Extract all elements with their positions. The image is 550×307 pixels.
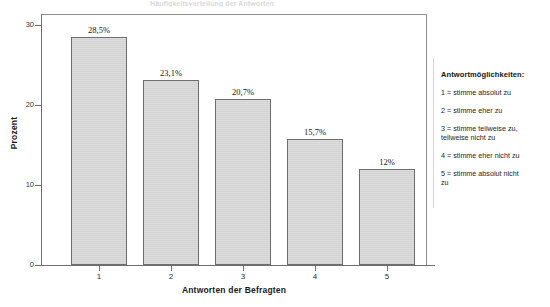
- x-tick-label-4: 4: [300, 272, 330, 282]
- bar-1: [71, 37, 127, 265]
- y-axis-title: Prozent: [9, 93, 19, 173]
- y-tick-0: [35, 265, 41, 266]
- y-tick-10: [35, 185, 41, 186]
- y-axis-line: [41, 14, 42, 266]
- chart-screenshot: Häufigkeitsverteilung der Antworten 0 10…: [0, 0, 550, 307]
- legend-title: Antwortmöglichkeiten:: [441, 70, 550, 79]
- legend-divider: [433, 58, 434, 208]
- bar-label-4: 15,7%: [285, 127, 345, 137]
- x-tick-3: [243, 266, 244, 271]
- x-tick-4: [315, 266, 316, 271]
- legend-item-1: 1 = stimme absolut zu: [441, 88, 550, 97]
- y-tick-label-30: 30: [14, 21, 34, 29]
- y-tick-20: [35, 105, 41, 106]
- x-tick-label-1: 1: [84, 272, 114, 282]
- x-tick-label-3: 3: [228, 272, 258, 282]
- bar-4: [287, 139, 343, 265]
- x-tick-5: [387, 266, 388, 271]
- bar-label-5: 12%: [357, 157, 417, 167]
- bar-3: [215, 99, 271, 265]
- x-axis-title: Antworten der Befragten: [41, 285, 427, 295]
- legend-panel: Antwortmöglichkeiten: 1 = stimme absolut…: [441, 70, 550, 196]
- legend-item-5: 5 = stimme absolut nicht zu: [441, 169, 550, 187]
- x-tick-1: [99, 266, 100, 271]
- legend-item-3: 3 = stimme teilweise zu, teilweise nicht…: [441, 124, 550, 142]
- chart-panel: 0 10 20 30 28,5% 23,1% 20,7% 15,7% 12% 1…: [0, 0, 433, 307]
- bar-label-3: 20,7%: [213, 87, 273, 97]
- bar-5: [359, 169, 415, 265]
- legend-item-2: 2 = stimme eher zu: [441, 106, 550, 115]
- x-tick-label-2: 2: [156, 272, 186, 282]
- bar-2: [143, 80, 199, 265]
- x-tick-2: [171, 266, 172, 271]
- bar-label-2: 23,1%: [141, 68, 201, 78]
- y-tick-label-0: 0: [14, 261, 34, 269]
- x-tick-label-5: 5: [372, 272, 402, 282]
- x-axis-line: [41, 265, 435, 266]
- legend-item-4: 4 = stimme eher nicht zu: [441, 151, 550, 160]
- y-tick-label-10: 10: [14, 181, 34, 189]
- y-tick-30: [35, 25, 41, 26]
- bar-label-1: 28,5%: [69, 25, 129, 35]
